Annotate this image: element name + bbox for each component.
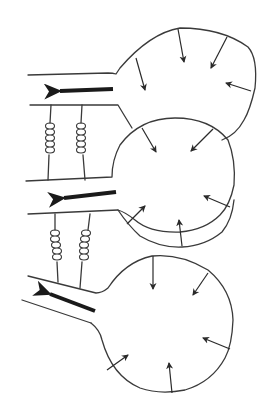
middle-bulb-lower-curve [118, 200, 234, 247]
upper-coils [46, 105, 86, 180]
middle-flow-arrow-icon [64, 192, 116, 198]
middle-bulb [26, 118, 234, 247]
arrow-icon [203, 338, 230, 349]
acini-diagram [0, 0, 266, 414]
coil-stem [48, 155, 49, 180]
arrow-icon [204, 196, 230, 207]
arrow-icon [226, 83, 251, 91]
arrow-icon [136, 58, 145, 90]
coil-stem [50, 105, 51, 123]
bottom-bulb-inward-arrows [107, 256, 230, 393]
lower-coils [51, 214, 91, 288]
arrow-icon [169, 363, 172, 393]
coil-stem [83, 155, 85, 180]
bottom-flow-arrow-icon [50, 294, 95, 311]
coil-stem [88, 214, 90, 230]
arrow-icon [193, 273, 208, 295]
top-bulb [28, 28, 256, 140]
arrow-icon [142, 128, 156, 152]
coil-icon [80, 230, 91, 260]
arrow-icon [179, 220, 182, 246]
coil-stem [57, 262, 58, 282]
middle-bulb-inward-arrows [127, 128, 230, 246]
coil-icon [46, 123, 55, 153]
arrow-icon [191, 129, 213, 151]
coil-stem [80, 262, 82, 288]
arrow-icon [178, 29, 184, 62]
coil-stem [81, 105, 82, 123]
bottom-duct-upper-wall [28, 256, 233, 393]
coil-icon [51, 230, 62, 260]
arrow-icon [107, 355, 128, 370]
bottom-bulb [22, 256, 233, 393]
middle-duct-upper-wall [26, 118, 234, 232]
coil-icon [77, 123, 86, 153]
top-flow-arrow-icon [60, 89, 113, 91]
top-bulb-outline [28, 28, 256, 140]
arrow-icon [211, 37, 227, 68]
